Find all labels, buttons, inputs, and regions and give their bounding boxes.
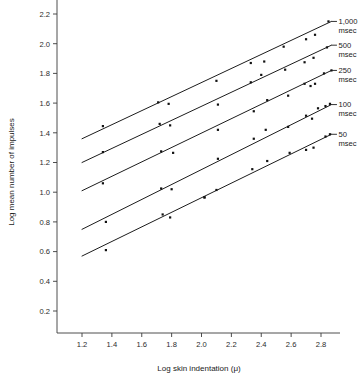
x-tick-label: 1.6 [136, 340, 147, 349]
data-point [260, 74, 262, 76]
data-point [102, 151, 104, 153]
x-tick-label: 1.8 [166, 340, 177, 349]
data-point [102, 125, 104, 127]
data-point [289, 152, 291, 154]
y-tick-label: 1.2 [39, 158, 50, 167]
data-point [266, 160, 268, 162]
data-point [303, 61, 305, 63]
y-tick-label: 0.8 [39, 218, 50, 227]
x-tick-label: 2.6 [286, 340, 297, 349]
data-point [266, 99, 268, 101]
figure-container: 0.20.40.60.81.01.21.41.61.82.02.2 1.21.4… [0, 0, 363, 381]
data-point [324, 105, 326, 107]
y-tick-label: 1.8 [39, 69, 50, 78]
data-point [327, 20, 329, 22]
x-tick-label: 2.4 [256, 340, 267, 349]
data-point [312, 57, 314, 59]
data-point [172, 152, 174, 154]
data-point [102, 182, 104, 184]
series-label-unit: msec [338, 75, 356, 84]
data-point [169, 124, 171, 126]
series-label-unit: msec [338, 50, 356, 59]
data-point [314, 34, 316, 36]
y-tick-label: 0.2 [39, 307, 50, 316]
data-point [253, 138, 255, 140]
data-point [311, 118, 313, 120]
data-point [215, 189, 217, 191]
data-point [203, 196, 205, 198]
data-point [287, 95, 289, 97]
y-tick-label: 1.4 [39, 129, 50, 138]
data-point [323, 72, 325, 74]
data-point [168, 103, 170, 105]
x-tick-label: 2.8 [316, 340, 327, 349]
series-label-value: 500 [338, 41, 351, 50]
x-axis-title: Log skin indentation (μ) [157, 364, 241, 373]
data-point [326, 46, 328, 48]
data-point [159, 123, 161, 125]
data-point [171, 188, 173, 190]
x-tick-label: 2.2 [226, 340, 237, 349]
data-point [250, 81, 252, 83]
data-point [329, 133, 331, 135]
data-point [105, 221, 107, 223]
data-point [305, 115, 307, 117]
y-tick-label: 0.6 [39, 247, 50, 256]
data-point [314, 83, 316, 85]
x-tick-label: 1.2 [77, 340, 88, 349]
data-point [251, 168, 253, 170]
data-point [317, 107, 319, 109]
data-point [324, 135, 326, 137]
data-point [160, 187, 162, 189]
data-point [265, 129, 267, 131]
data-point [250, 62, 252, 64]
series-label-value: 50 [338, 130, 346, 139]
y-tick-label: 2.2 [39, 10, 50, 19]
data-point [283, 46, 285, 48]
y-tick-label: 0.4 [39, 277, 50, 286]
data-point [217, 129, 219, 131]
data-point [160, 150, 162, 152]
data-point [305, 38, 307, 40]
data-point [217, 158, 219, 160]
data-point [287, 126, 289, 128]
data-point [329, 103, 331, 105]
data-point [263, 60, 265, 62]
series-label-unit: msec [338, 109, 356, 118]
series-label-unit: msec [338, 26, 356, 35]
data-point [105, 249, 107, 251]
data-point [157, 101, 159, 103]
data-point [309, 85, 311, 87]
data-point [162, 213, 164, 215]
data-point [253, 110, 255, 112]
data-point [284, 69, 286, 71]
data-point [305, 149, 307, 151]
y-tick-label: 1.6 [39, 99, 50, 108]
series-label-value: 250 [338, 66, 351, 75]
data-point [303, 83, 305, 85]
series-label-unit: msec [338, 139, 356, 148]
data-point [215, 80, 217, 82]
scatter-plot: 0.20.40.60.81.01.21.41.61.82.02.2 1.21.4… [0, 0, 363, 381]
x-tick-label: 2.0 [196, 340, 207, 349]
series-label-value: 1,000 [338, 17, 357, 26]
y-tick-label: 1.0 [39, 188, 50, 197]
y-axis-title: Log mean number of impulses [7, 118, 16, 226]
data-point [169, 216, 171, 218]
plot-background [0, 0, 363, 381]
data-point [312, 147, 314, 149]
x-tick-label: 1.4 [107, 340, 118, 349]
series-label-value: 100 [338, 100, 351, 109]
data-point [217, 103, 219, 105]
y-tick-label: 2.0 [39, 40, 50, 49]
